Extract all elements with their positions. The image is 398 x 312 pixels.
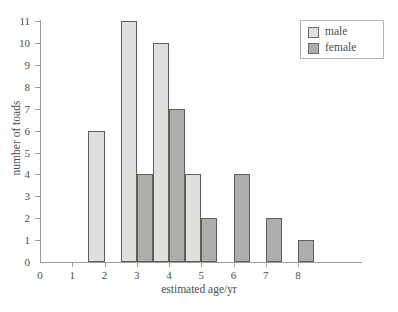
y-tick-mark [35, 65, 40, 66]
bar-female-age-8 [298, 240, 314, 262]
x-tick-label: 2 [95, 270, 115, 281]
y-tick-mark [35, 240, 40, 241]
y-tick-mark [35, 218, 40, 219]
x-tick-label: 8 [288, 270, 308, 281]
y-tick-mark [35, 43, 40, 44]
legend-label-female: female [325, 42, 356, 54]
y-tick-mark [35, 109, 40, 110]
y-tick-label: 11 [8, 16, 30, 27]
x-tick-label: 1 [62, 270, 82, 281]
y-tick-label: 9 [8, 60, 30, 71]
x-tick-mark [234, 262, 235, 267]
x-tick-mark [105, 262, 106, 267]
x-tick-mark [72, 262, 73, 267]
y-axis-line [40, 20, 41, 262]
x-tick-label: 3 [127, 270, 147, 281]
y-tick-mark [35, 21, 40, 22]
y-tick-label: 10 [8, 38, 30, 49]
legend-item-male: male [308, 25, 347, 39]
x-tick-mark [169, 262, 170, 267]
y-axis-title: number of toads [10, 78, 22, 198]
x-tick-label: 7 [256, 270, 276, 281]
x-tick-mark [266, 262, 267, 267]
x-tick-label: 5 [191, 270, 211, 281]
legend-label-male: male [325, 26, 347, 38]
bar-female-age-5 [201, 218, 217, 262]
x-axis-title: estimated age/yr [0, 283, 398, 295]
bar-male-age-2 [88, 131, 104, 262]
y-tick-label: 1 [8, 235, 30, 246]
y-tick-label: 2 [8, 213, 30, 224]
bar-female-age-6 [234, 174, 250, 262]
y-tick-mark [35, 196, 40, 197]
bar-female-age-3 [137, 174, 153, 262]
x-tick-mark [137, 262, 138, 267]
y-tick-mark [35, 87, 40, 88]
bar-male-age-5 [185, 174, 201, 262]
bar-male-age-3 [121, 21, 137, 262]
x-tick-label: 6 [224, 270, 244, 281]
y-tick-mark [35, 153, 40, 154]
toad-age-histogram: 01234567891011 012345678 estimated age/y… [0, 0, 398, 312]
x-tick-label: 0 [30, 270, 50, 281]
y-tick-mark [35, 174, 40, 175]
x-tick-mark [201, 262, 202, 267]
y-tick-label: 0 [8, 257, 30, 268]
y-tick-mark [35, 131, 40, 132]
bar-female-age-4 [169, 109, 185, 262]
legend-swatch-female-icon [308, 43, 319, 54]
legend-item-female: female [308, 41, 356, 55]
bar-female-age-7 [266, 218, 282, 262]
bar-male-age-4 [153, 43, 169, 262]
x-tick-mark [298, 262, 299, 267]
legend: male female [300, 20, 384, 59]
legend-swatch-male-icon [308, 27, 319, 38]
x-tick-label: 4 [159, 270, 179, 281]
